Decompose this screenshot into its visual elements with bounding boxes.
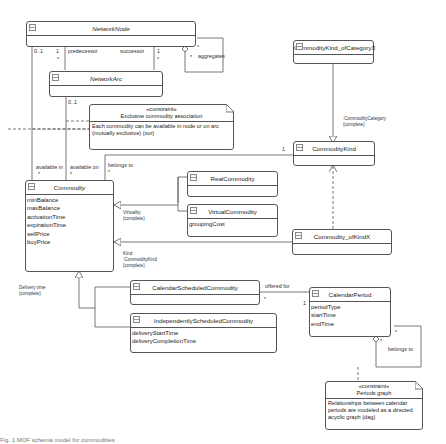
note-body: Relationships between calendar periods a…	[326, 399, 422, 422]
class-icon	[29, 24, 36, 31]
class-icon	[52, 74, 59, 81]
multiplicity-label: *	[70, 171, 72, 178]
attribute: periodType	[311, 303, 389, 311]
attribute: activationTime	[27, 213, 112, 221]
class-name: IndependentlyScheduledCommodity	[154, 317, 253, 324]
class-icon	[190, 207, 197, 214]
generalization-set-label: :CommodityCategory	[343, 116, 386, 122]
figure-caption: Fig. 1 MOF schema model for commodities	[0, 437, 115, 443]
multiplicity-label: *	[197, 44, 199, 51]
role-label-belongs-to: belongs to	[108, 162, 133, 169]
class-name: NetworkNode	[92, 25, 130, 32]
class-commodity-kind-of-category[interactable]: CommodityKind_ofCategoryX	[293, 40, 374, 64]
generalization-set-label: {complete}	[123, 263, 145, 269]
role-label-aggregates: aggregates	[198, 53, 225, 60]
note-exclusive-association[interactable]: «constraint» Exclusive commodity associa…	[89, 104, 234, 150]
class-virtual-commodity[interactable]: VirtualCommodity groupingCost	[187, 204, 278, 237]
class-real-commodity[interactable]: RealCommodity	[187, 171, 278, 197]
multiplicity-label: *	[38, 171, 40, 178]
class-independently-scheduled-commodity[interactable]: IndependentlyScheduledCommodity delivery…	[130, 313, 277, 353]
generalization-set-label: {complete}	[123, 216, 145, 222]
note-fold-icon	[415, 381, 423, 389]
generalization-set-label: Kind	[123, 251, 132, 257]
multiplicity-label: 0..1	[68, 99, 77, 106]
multiplicity-label: 1	[303, 300, 306, 307]
uml-diagram-canvas: NetworkNode NetworkArc CommodityKind_ofC…	[0, 0, 446, 444]
generalization-set-label: :CommodityKind	[123, 257, 157, 263]
generalization-set-label: {complete}	[343, 122, 365, 128]
class-calendar-scheduled-commodity[interactable]: CalendarScheduledCommodity	[130, 280, 260, 305]
multiplicity-label: *	[190, 54, 192, 61]
class-icon	[190, 174, 197, 181]
multiplicity-label: *	[380, 338, 382, 345]
note-stereotype: «constraint»	[326, 383, 422, 390]
class-commodity-kind[interactable]: CommodityKind	[293, 141, 375, 166]
class-icon	[296, 144, 303, 151]
class-name: Commodity	[54, 184, 85, 191]
multiplicity-label: *	[264, 296, 266, 303]
multiplicity-label: *	[395, 329, 397, 336]
class-name: CommodityKind_ofCategoryX	[294, 44, 376, 51]
generalization-set-label: Virtuality	[123, 210, 141, 216]
attribute: deliveryStartTime	[132, 329, 275, 337]
attribute: expirationTime	[27, 221, 112, 229]
class-name: Commodity_ofKindX	[314, 233, 370, 240]
class-icon	[312, 290, 319, 297]
multiplicity-label: *	[157, 56, 159, 63]
class-network-node[interactable]: NetworkNode	[26, 21, 196, 47]
note-body: Each commodity can be available in node …	[90, 122, 233, 138]
note-stereotype: «constraint»	[90, 106, 233, 113]
class-name: CalendarScheduledCommodity	[152, 284, 238, 291]
role-label-belongs-to-period: belongs to	[388, 346, 413, 353]
class-name: NetworkArc	[90, 75, 122, 82]
role-label-offered-for: offered for	[265, 283, 289, 290]
attribute: groupingCost	[189, 220, 276, 228]
note-title: Periods graph	[326, 390, 422, 397]
attribute: buyPrice	[27, 238, 112, 246]
attribute: startTime	[311, 311, 389, 319]
attribute: maxBalance	[27, 204, 112, 212]
class-name: VirtualCommodity	[208, 208, 257, 215]
multiplicity-label: 1	[282, 146, 285, 153]
generalization-set-label: Delivery time	[19, 285, 46, 291]
attribute: endTime	[311, 320, 389, 328]
class-name: RealCommodity	[210, 175, 254, 182]
role-label-available-in: available in	[36, 164, 63, 171]
multiplicity-label: 1	[56, 48, 59, 55]
note-title: Exclusive commodity association	[90, 113, 233, 120]
class-icon	[296, 43, 303, 50]
attribute-list: minBalance maxBalance activationTime exp…	[26, 195, 113, 247]
multiplicity-label: *	[108, 169, 110, 176]
class-commodity[interactable]: Commodity minBalance maxBalance activati…	[25, 180, 114, 272]
multiplicity-label: 1	[157, 48, 160, 55]
generalization-set-label: {complete}	[19, 291, 41, 297]
attribute: minBalance	[27, 196, 112, 204]
attribute: deliveryCompletionTime	[132, 337, 275, 345]
role-label-predecessor: predecessor	[68, 48, 98, 55]
class-calendar-period[interactable]: CalendarPeriod periodType startTime endT…	[309, 287, 391, 337]
class-name: CommodityKind	[312, 145, 356, 152]
class-icon	[28, 183, 35, 190]
role-label-available-on: available on	[70, 164, 99, 171]
multiplicity-label: *	[57, 56, 59, 63]
class-name: CalendarPeriod	[329, 291, 372, 298]
attribute: sellPrice	[27, 230, 112, 238]
class-icon	[295, 232, 302, 239]
role-label-successor: successor	[120, 48, 144, 55]
note-periods-graph[interactable]: «constraint» Periods graph Relationships…	[325, 381, 423, 430]
class-icon	[133, 283, 140, 290]
class-icon	[133, 316, 140, 323]
class-commodity-of-kind[interactable]: Commodity_ofKindX	[292, 229, 392, 255]
class-network-arc[interactable]: NetworkArc	[49, 71, 163, 97]
multiplicity-label: 0..1	[34, 48, 43, 55]
note-fold-icon	[226, 104, 234, 112]
